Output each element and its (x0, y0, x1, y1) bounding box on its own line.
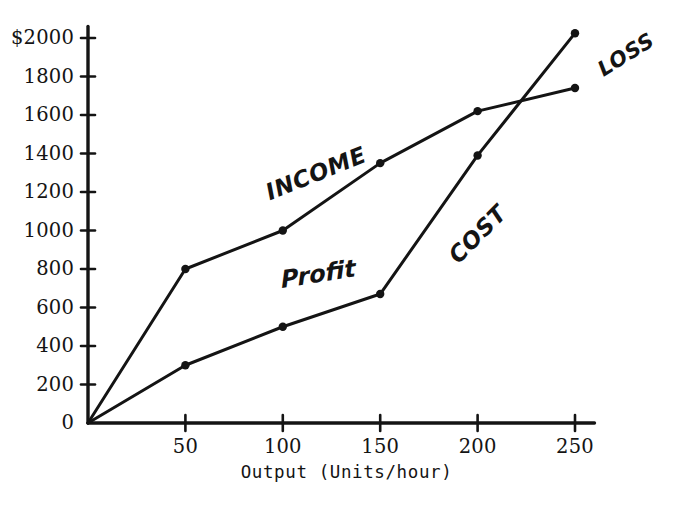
data-point-cost-200 (473, 151, 481, 159)
data-point-cost-250 (571, 29, 579, 37)
x-tick-label: 50 (173, 437, 198, 457)
data-point-cost-100 (279, 323, 287, 331)
tick-marks (81, 38, 575, 431)
plot-area (0, 0, 693, 507)
series-markers (181, 29, 579, 369)
axes (88, 26, 594, 423)
y-tick-label: $2000 (0, 28, 74, 48)
y-tick-label: 200 (0, 375, 74, 395)
data-point-income-50 (181, 265, 189, 273)
y-tick-label: 800 (0, 259, 74, 279)
data-point-income-150 (376, 159, 384, 167)
data-point-cost-150 (376, 290, 384, 298)
y-tick-label: 1000 (0, 221, 74, 241)
data-point-income-250 (571, 84, 579, 92)
x-tick-label: 150 (361, 437, 399, 457)
series-line-income (88, 88, 575, 423)
y-tick-label: 1800 (0, 67, 74, 87)
x-tick-label: 250 (556, 437, 594, 457)
break-even-chart: 020040060080010001200140016001800$2000 5… (0, 0, 693, 507)
data-point-cost-50 (181, 361, 189, 369)
data-point-income-200 (473, 107, 481, 115)
y-tick-label: 1400 (0, 144, 74, 164)
x-tick-label: 200 (459, 437, 497, 457)
y-tick-label: 400 (0, 336, 74, 356)
y-tick-label: 600 (0, 298, 74, 318)
x-tick-label: 100 (264, 437, 302, 457)
y-tick-label: 1200 (0, 182, 74, 202)
data-point-income-100 (279, 226, 287, 234)
y-tick-label: 1600 (0, 105, 74, 125)
x-axis-title: Output (Units/hour) (0, 462, 693, 482)
y-tick-label: 0 (0, 413, 74, 433)
